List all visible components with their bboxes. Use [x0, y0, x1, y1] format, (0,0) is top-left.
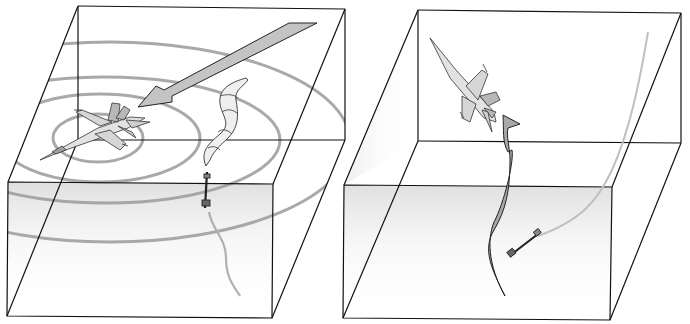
diagram-canvas — [0, 0, 690, 324]
left-panel — [0, 6, 350, 318]
right-panel — [343, 10, 681, 320]
aircraft-icon — [430, 38, 500, 132]
right-box-front-shade — [343, 185, 612, 320]
